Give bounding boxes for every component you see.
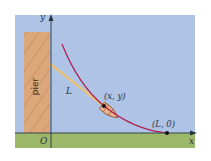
point-xy-label: (x, y) bbox=[104, 92, 126, 101]
origin-label: O bbox=[40, 137, 47, 146]
y-axis-label: y bbox=[40, 13, 45, 22]
pier-label: pier bbox=[31, 78, 40, 95]
tractrix-figure: y x O L (x, y) (L, 0) pier bbox=[0, 0, 211, 161]
x-axis-label: x bbox=[189, 137, 194, 146]
point-L0 bbox=[165, 131, 169, 135]
segment-L-label: L bbox=[66, 87, 72, 96]
point-L0-label: (L, 0) bbox=[152, 120, 175, 129]
point-xy bbox=[102, 104, 106, 108]
